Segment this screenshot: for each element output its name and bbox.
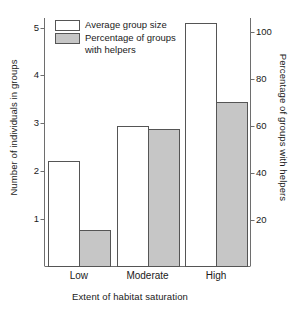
left-axis-title: Number of individuals in groups xyxy=(8,53,19,203)
bar xyxy=(149,130,180,267)
bar xyxy=(80,231,111,267)
right-tick-label: 80 xyxy=(256,73,280,84)
chart-legend: Average group size Percentage of groups … xyxy=(55,19,215,56)
bar-chart-figure: 12345 20406080100 LowModerateHigh Number… xyxy=(0,0,295,311)
right-tick-label: 40 xyxy=(256,167,280,178)
legend-item-average-group-size: Average group size xyxy=(55,19,215,31)
left-tick-label: 5 xyxy=(23,22,39,33)
bar xyxy=(186,24,217,267)
bar xyxy=(217,103,248,267)
legend-swatch-open-icon xyxy=(55,20,80,31)
x-axis-title: Extent of habitat saturation xyxy=(0,291,260,302)
right-axis-ticks xyxy=(251,33,255,221)
left-tick-label: 2 xyxy=(23,165,39,176)
left-axis-ticks xyxy=(41,29,45,220)
legend-label-percentage-with-helpers: Percentage of groups with helpers xyxy=(85,32,176,55)
bar xyxy=(49,162,80,267)
bar xyxy=(118,127,149,267)
legend-swatch-filled-icon xyxy=(55,33,80,44)
category-label: High xyxy=(166,270,266,281)
left-tick-label: 1 xyxy=(23,213,39,224)
bars-layer xyxy=(49,24,248,267)
right-tick-label: 100 xyxy=(256,26,280,37)
left-tick-label: 4 xyxy=(23,69,39,80)
legend-item-percentage-with-helpers: Percentage of groups with helpers xyxy=(55,32,215,55)
legend-label-average-group-size: Average group size xyxy=(85,19,167,31)
right-tick-label: 20 xyxy=(256,214,280,225)
left-tick-label: 3 xyxy=(23,117,39,128)
right-axis-title: Percentage of groups with helpers xyxy=(278,53,289,203)
right-tick-label: 60 xyxy=(256,120,280,131)
